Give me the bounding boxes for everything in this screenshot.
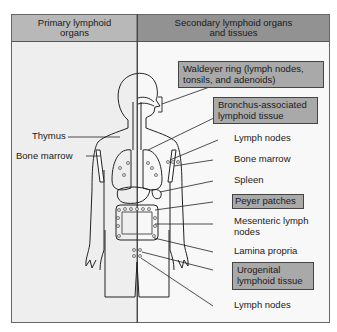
label-mesenteric-lymph-nodes: Mesenteric lymph nodes <box>234 216 308 237</box>
waldeyer-line2: tonsils, and adenoids) <box>183 75 319 86</box>
label-thymus: Thymus <box>32 131 66 142</box>
label-bone-marrow-secondary: Bone marrow <box>234 154 291 165</box>
label-bone-marrow-primary: Bone marrow <box>16 151 73 162</box>
mesenteric-line1: Mesenteric lymph <box>234 216 308 227</box>
label-lamina-propria: Lamina propria <box>234 246 297 257</box>
waldeyer-line1: Waldeyer ring (lymph nodes, <box>183 64 319 75</box>
box-urogenital-lymphoid-tissue: Urogenital lymphoid tissue <box>232 262 314 290</box>
label-lymph-nodes-upper: Lymph nodes <box>234 133 291 144</box>
box-waldeyer-ring: Waldeyer ring (lymph nodes, tonsils, and… <box>178 61 324 88</box>
balt-line1: Bronchus-associated <box>218 100 313 111</box>
box-bronchus-associated-lymphoid-tissue: Bronchus-associated lymphoid tissue <box>213 97 318 124</box>
urogenital-line1: Urogenital <box>237 265 309 276</box>
balt-line2: lymphoid tissue <box>218 111 313 122</box>
urogenital-line2: lymphoid tissue <box>237 276 309 287</box>
mesenteric-line2: nodes <box>234 227 308 238</box>
box-peyer-patches: Peyer patches <box>232 194 304 209</box>
peyer-text: Peyer patches <box>235 195 296 206</box>
label-lymph-nodes-lower: Lymph nodes <box>234 300 291 311</box>
label-spleen: Spleen <box>234 175 264 186</box>
